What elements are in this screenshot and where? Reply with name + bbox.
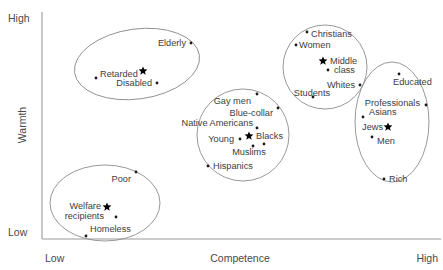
scatter-plot-canvas: ElderlyRetardedDisabledChristiansWomenMi… bbox=[0, 0, 443, 270]
point-label-homeless: Homeless bbox=[90, 224, 131, 234]
point-label-blue-collar: Blue-collar bbox=[230, 108, 273, 118]
dot-marker-point-22 bbox=[263, 143, 266, 146]
point-label-welfare: Welfare bbox=[70, 201, 102, 211]
point-label-educated: Educated bbox=[393, 77, 432, 87]
dot-marker-women bbox=[295, 44, 298, 47]
dot-marker-rich bbox=[383, 178, 386, 181]
dot-marker-asians bbox=[362, 116, 365, 119]
dot-marker-blue-collar bbox=[277, 107, 280, 110]
point-label-disabled: Disabled bbox=[116, 78, 152, 88]
point-label-elderly: Elderly bbox=[158, 38, 186, 48]
star-marker-blacks bbox=[245, 131, 254, 139]
point-label-women: Women bbox=[299, 40, 331, 50]
point-label-whites: Whites bbox=[327, 80, 355, 90]
x-axis-low-tick-label: Low bbox=[45, 252, 65, 264]
dot-marker-professionals bbox=[425, 104, 428, 107]
point-label-students: Students bbox=[294, 88, 331, 98]
point-label-young: Young bbox=[208, 134, 234, 144]
dot-marker-poor bbox=[135, 171, 138, 174]
x-axis-title: Competence bbox=[210, 252, 270, 264]
point-label-blacks: Blacks bbox=[256, 131, 283, 141]
dot-marker-educated bbox=[398, 73, 401, 76]
dot-marker-disabled bbox=[156, 82, 159, 85]
point-label-jews: Jews bbox=[362, 122, 383, 132]
dot-marker-christians bbox=[306, 31, 309, 34]
point-label-recipients: recipients bbox=[65, 211, 105, 221]
point-label-poor: Poor bbox=[112, 174, 131, 184]
dot-marker-homeless bbox=[85, 235, 88, 238]
point-label-rich: Rich bbox=[389, 174, 407, 184]
dot-marker-elderly bbox=[190, 42, 193, 45]
point-label-men: Men bbox=[377, 136, 395, 146]
dot-marker-young bbox=[239, 138, 242, 141]
point-label-gay-men: Gay men bbox=[214, 96, 251, 106]
stereotype-content-scatter-figure: ElderlyRetardedDisabledChristiansWomenMi… bbox=[0, 0, 443, 270]
y-axis-title: Warmth bbox=[16, 107, 28, 144]
point-label-christians: Christians bbox=[311, 29, 352, 39]
dot-marker-class bbox=[327, 69, 330, 72]
dot-marker-hispanics bbox=[207, 165, 210, 168]
y-axis-low-tick-label: Low bbox=[8, 226, 28, 238]
point-label-native-americans: Native Americans bbox=[182, 118, 254, 128]
star-marker-middle bbox=[319, 56, 328, 64]
point-label-hispanics: Hispanics bbox=[213, 161, 253, 171]
dot-marker-men bbox=[371, 136, 374, 139]
x-axis-high-tick-label: High bbox=[416, 252, 438, 264]
dot-marker-recipients bbox=[115, 216, 118, 219]
dot-marker-whites bbox=[359, 84, 362, 87]
dot-marker-gay-men bbox=[256, 93, 259, 96]
star-marker-jews bbox=[384, 122, 393, 130]
point-label-asians: Asians bbox=[369, 107, 397, 117]
dot-marker-retarded bbox=[95, 77, 98, 80]
star-marker-point-2 bbox=[139, 66, 148, 74]
y-axis-high-tick-label: High bbox=[8, 12, 30, 24]
dot-marker-native-americans bbox=[256, 127, 259, 130]
point-label-class: class bbox=[334, 65, 355, 75]
point-label-muslims: Muslims bbox=[232, 147, 266, 157]
cluster-ellipse-paternalistic bbox=[70, 21, 205, 108]
star-marker-welfare bbox=[103, 202, 112, 210]
data-points-group: ElderlyRetardedDisabledChristiansWomenMi… bbox=[65, 29, 432, 237]
